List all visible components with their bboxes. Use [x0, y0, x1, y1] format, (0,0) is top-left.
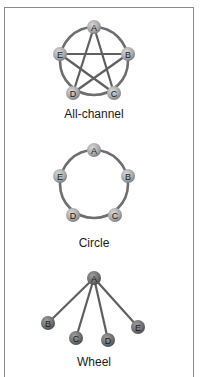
- node-e: E: [53, 169, 67, 183]
- node-label: C: [73, 334, 80, 344]
- node-c: C: [69, 331, 83, 345]
- node-a: A: [87, 271, 101, 285]
- node-b: B: [121, 169, 135, 183]
- circle-label: Circle: [79, 236, 110, 250]
- edge-B-D: [73, 54, 128, 93]
- all-channel-label: All-channel: [64, 107, 123, 121]
- node-label: E: [57, 172, 63, 182]
- node-d: D: [66, 86, 80, 100]
- node-label: A: [91, 274, 97, 284]
- node-c: C: [108, 208, 122, 222]
- node-e: E: [131, 320, 145, 334]
- node-label: A: [91, 146, 97, 156]
- node-a: A: [87, 143, 101, 157]
- node-label: C: [112, 211, 119, 221]
- node-a: A: [87, 20, 101, 34]
- node-e: E: [53, 47, 67, 61]
- node-label: B: [125, 172, 131, 182]
- node-label: B: [45, 319, 51, 329]
- node-b: B: [121, 47, 135, 61]
- wheel-network: ABCDE: [41, 271, 145, 347]
- node-label: D: [70, 89, 77, 99]
- node-label: C: [111, 89, 118, 99]
- node-label: A: [91, 23, 97, 33]
- node-label: D: [70, 211, 77, 221]
- node-d: D: [66, 208, 80, 222]
- node-label: D: [105, 336, 112, 346]
- node-label: E: [135, 323, 141, 333]
- edge-A-D: [73, 27, 94, 93]
- ring-link: [60, 150, 128, 218]
- edge-A-C: [94, 27, 114, 93]
- edge-C-E: [60, 54, 114, 93]
- node-b: B: [41, 316, 55, 330]
- circle-network: ABCDE: [53, 143, 135, 222]
- all-channel-network: ABCDE: [53, 20, 135, 100]
- node-d: D: [101, 333, 115, 347]
- node-label: B: [125, 50, 131, 60]
- node-c: C: [107, 86, 121, 100]
- node-label: E: [57, 50, 63, 60]
- wheel-label: Wheel: [77, 355, 111, 369]
